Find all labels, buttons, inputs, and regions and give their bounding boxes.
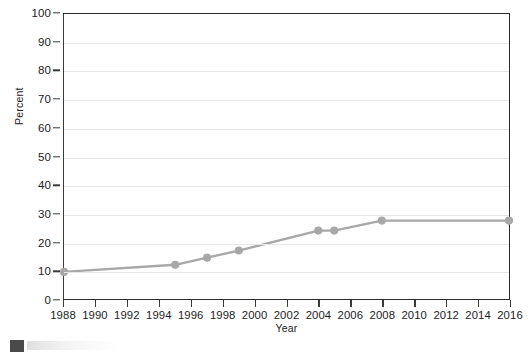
y-tick-label: 70 [38, 93, 51, 105]
x-tick-label: 2000 [242, 309, 268, 321]
data-point-marker [330, 227, 338, 235]
y-tick-mark [53, 127, 60, 128]
y-tick-label: 90 [38, 36, 51, 48]
gridline [64, 215, 509, 216]
y-tick-label: 100 [32, 7, 52, 19]
y-tick-mark [53, 242, 60, 243]
x-tick-mark [382, 300, 383, 307]
y-tick-label: 10 [38, 265, 51, 277]
y-tick-label: 40 [38, 179, 51, 191]
x-tick-label: 2016 [497, 309, 523, 321]
x-tick-label: 1998 [210, 309, 236, 321]
gridline [64, 186, 509, 187]
y-tick-label: 50 [38, 151, 51, 163]
x-tick-label: 2004 [306, 309, 332, 321]
chart-figure: Percent 0102030405060708090100 198819901… [0, 0, 528, 356]
y-axis: 0102030405060708090100 [0, 0, 63, 313]
gridline [64, 71, 509, 72]
x-tick-mark [159, 300, 160, 307]
x-tick-label: 2002 [274, 309, 300, 321]
x-tick-label: 1990 [82, 309, 108, 321]
x-tick-mark [510, 300, 511, 307]
x-tick-label: 2012 [433, 309, 459, 321]
gridline [64, 244, 509, 245]
x-tick-label: 2006 [338, 309, 364, 321]
x-tick-mark [191, 300, 192, 307]
y-tick-label: 20 [38, 237, 51, 249]
y-tick-label: 80 [38, 64, 51, 76]
x-tick-mark [95, 300, 96, 307]
gridline [64, 158, 509, 159]
legend-caption [27, 341, 119, 350]
x-tick-label: 2014 [465, 309, 491, 321]
gridline [64, 129, 509, 130]
series-line-chart [64, 14, 509, 299]
x-tick-label: 2010 [401, 309, 427, 321]
chart-footer [0, 338, 528, 356]
y-tick-mark [53, 41, 60, 42]
y-tick-label: 30 [38, 208, 51, 220]
y-tick-mark [53, 70, 60, 71]
x-tick-mark [127, 300, 128, 307]
x-tick-mark [318, 300, 319, 307]
x-axis-title: Year [63, 322, 510, 334]
x-tick-label: 1994 [146, 309, 172, 321]
y-tick-label: 60 [38, 122, 51, 134]
data-point-marker [505, 217, 513, 225]
y-tick-mark [53, 213, 60, 214]
y-tick-mark [53, 98, 60, 99]
x-tick-mark [478, 300, 479, 307]
data-point-marker [314, 227, 322, 235]
x-tick-mark [414, 300, 415, 307]
y-tick-mark [53, 156, 60, 157]
y-tick-mark [53, 184, 60, 185]
x-tick-mark [63, 300, 64, 307]
gridline [64, 272, 509, 273]
plot-area [63, 13, 510, 300]
x-tick-label: 2008 [370, 309, 396, 321]
y-tick-mark [53, 271, 60, 272]
x-tick-label: 1988 [50, 309, 76, 321]
x-tick-label: 1992 [114, 309, 140, 321]
series-line [64, 221, 509, 272]
y-tick-label: 0 [45, 294, 52, 306]
data-point-marker [203, 254, 211, 262]
y-tick-mark [53, 299, 60, 300]
data-point-marker [235, 246, 243, 254]
x-axis: 1988199019921994199619982000200220042006… [63, 300, 510, 340]
data-point-marker [171, 261, 179, 269]
gridline [64, 100, 509, 101]
x-tick-mark [350, 300, 351, 307]
y-tick-mark [53, 12, 60, 13]
x-tick-mark [255, 300, 256, 307]
legend-swatch [10, 340, 24, 352]
x-tick-mark [223, 300, 224, 307]
x-tick-mark [446, 300, 447, 307]
x-tick-mark [287, 300, 288, 307]
x-tick-label: 1996 [178, 309, 204, 321]
gridline [64, 43, 509, 44]
data-point-marker [378, 217, 386, 225]
